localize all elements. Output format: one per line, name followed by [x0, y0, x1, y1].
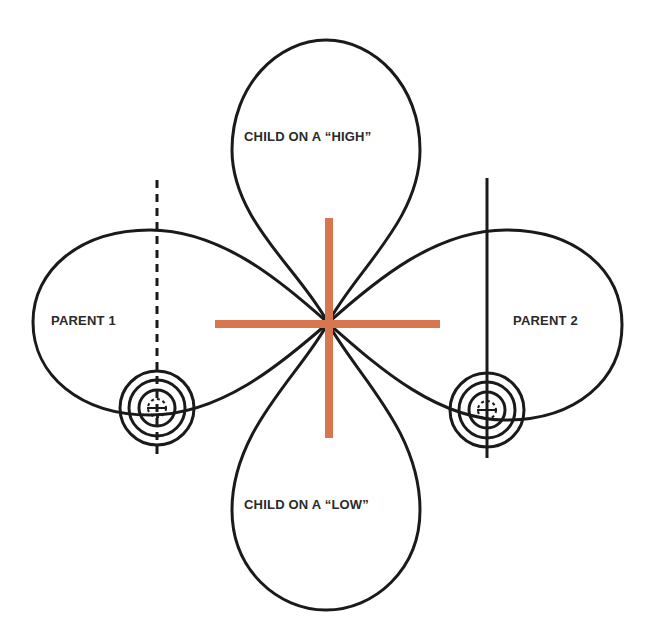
center-cross-icon [215, 218, 440, 438]
left-lobe-label: PARENT 1 [51, 313, 116, 328]
top-lobe-label: CHILD ON A “HIGH” [244, 129, 371, 144]
right-lobe-label: PARENT 2 [513, 313, 578, 328]
bottom-lobe-label: CHILD ON A “LOW” [244, 497, 369, 512]
